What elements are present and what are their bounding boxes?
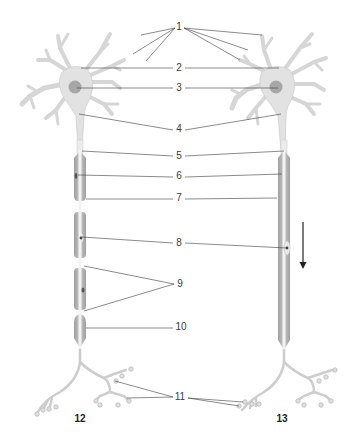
neuron-myelinated [22,34,133,416]
synaptic-knobs-left [35,367,133,416]
label-4: 4 [176,124,182,134]
nucleus-left [69,81,82,94]
label-6: 6 [176,171,182,181]
label-5: 5 [176,151,182,161]
label-2: 2 [176,63,182,73]
caption-12: 12 [74,413,85,424]
label-11: 11 [175,392,185,402]
axon-right [283,150,286,360]
axon-left [79,150,82,360]
cell-body-left [59,66,92,150]
neuron-diagram: 1 2 3 4 5 6 7 8 9 10 11 12 13 [0,0,354,444]
label-1: 1 [176,22,182,32]
label-7: 7 [176,193,182,203]
label-8: 8 [176,238,182,248]
nucleus-right [270,81,283,94]
label-3: 3 [176,83,182,93]
caption-13: 13 [276,413,287,424]
cell-body-right [260,66,295,150]
impulse-direction-arrow [300,222,307,269]
label-9: 9 [177,279,183,289]
neuron-unmyelinated [232,34,337,410]
label-10: 10 [175,322,186,332]
